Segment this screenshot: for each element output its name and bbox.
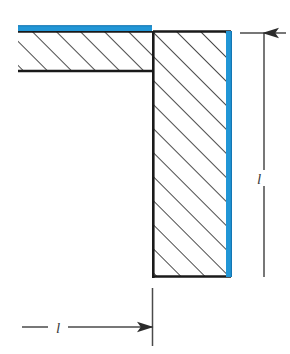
height-dimension-label: l xyxy=(257,171,261,187)
horizontal-flange xyxy=(18,31,153,72)
vertical-web-hatching xyxy=(152,31,231,277)
section-drawing: l l xyxy=(0,0,290,354)
diagram-canvas: l l xyxy=(0,0,290,354)
horizontal-flange-hatching xyxy=(18,31,152,72)
width-dimension-label: l xyxy=(56,320,60,336)
vertical-web xyxy=(152,31,231,278)
